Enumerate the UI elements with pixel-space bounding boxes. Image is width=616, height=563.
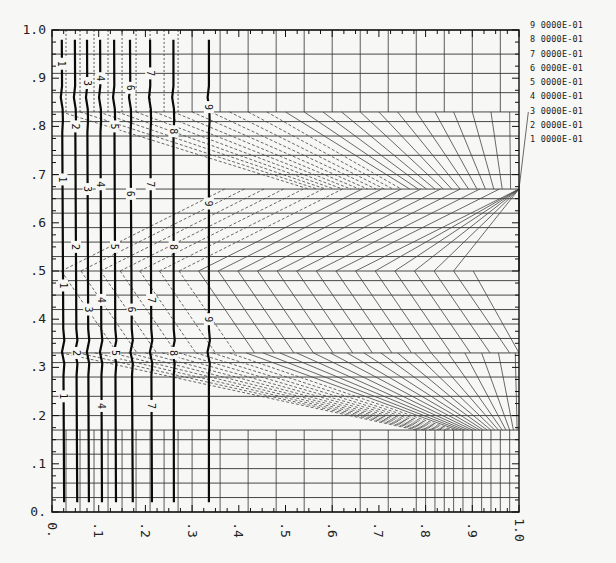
contour-label: 3 (82, 186, 93, 192)
mesh-slant-line (416, 112, 468, 189)
mesh-slant-line (81, 189, 244, 271)
y-tick-label: 0. (30, 504, 46, 519)
contour-label: 3 (82, 80, 93, 86)
mesh-slant-line (196, 353, 446, 430)
mesh-slant-line (211, 112, 376, 189)
y-tick-label: .3 (30, 359, 46, 374)
contour-label: 4 (96, 297, 107, 303)
contour-label: 1 (58, 393, 69, 399)
mesh-slant-line (159, 189, 322, 271)
mesh-slant-line (360, 112, 443, 189)
contour-label: 9 (203, 104, 214, 110)
y-tick-label: .5 (30, 263, 46, 278)
mesh-slant-line (356, 189, 519, 271)
x-tick-label: .8 (418, 522, 433, 538)
legend-entry: 8 0000E-01 (530, 32, 583, 46)
mesh-slant-line (218, 189, 381, 271)
contour-label: 4 (96, 403, 107, 409)
contour-label: 7 (146, 403, 157, 409)
y-tick-label: .4 (30, 311, 46, 326)
mesh-slant-line (267, 112, 401, 189)
mesh-slant-line (199, 189, 362, 271)
x-tick-label: .6 (325, 522, 340, 538)
mesh-slant-line (473, 271, 519, 353)
mesh-slant-line (297, 353, 469, 430)
mesh-slant-line (173, 112, 359, 189)
contour-label: 2 (70, 123, 81, 129)
mesh-slant-line (519, 112, 528, 189)
mesh-slant-line (448, 353, 502, 430)
mesh-slant-line (454, 189, 519, 271)
mesh-slant-line (280, 353, 465, 430)
mesh-slant-line (140, 189, 303, 271)
legend-entry: 3 0000E-01 (530, 104, 583, 118)
legend-entry: 6 0000E-01 (530, 61, 583, 75)
mesh-slant-line (323, 112, 427, 189)
contour-label: 8 (168, 244, 179, 250)
contour-label: 8 (168, 350, 179, 356)
mesh-slant-line (61, 189, 224, 271)
contour-label: 9 (203, 316, 214, 322)
mesh-slant-line (395, 189, 519, 271)
mesh-slant-line (491, 112, 502, 189)
legend-entry: 1 0000E-01 (530, 132, 583, 146)
legend-entry: 2 0000E-01 (530, 118, 583, 132)
x-tick-label: 0. (45, 522, 60, 538)
contour-label: 1 (58, 282, 69, 288)
mesh-slant-line (136, 112, 342, 189)
mesh-slant-line (277, 189, 440, 271)
y-tick-labels: 0..1.2.3.4.5.6.7.8.91.0 (23, 22, 47, 519)
contour-label: 1 (57, 176, 68, 182)
mesh-slant-line (414, 189, 519, 271)
x-tick-label: 1.0 (512, 518, 527, 541)
y-tick-label: 1.0 (23, 22, 46, 37)
mesh-slant-line (101, 189, 264, 271)
mesh-slant-line (78, 353, 420, 430)
mesh-slant-line (297, 189, 460, 271)
mesh-slant-line (229, 353, 453, 430)
contour-label: 1 (56, 61, 67, 67)
mesh-slant-line (248, 112, 393, 189)
mesh-slant-line (510, 112, 511, 189)
y-tick-label: .8 (30, 118, 46, 133)
mesh-grid (52, 30, 528, 512)
x-tick-label: .4 (231, 522, 246, 538)
x-tick-label: .9 (465, 522, 480, 538)
contour-label: 7 (145, 70, 156, 76)
contour-label: 5 (109, 123, 120, 129)
legend-entry: 9 0000E-01 (530, 18, 583, 32)
legend-entry: 7 0000E-01 (530, 47, 583, 61)
contour-line-8 (172, 40, 175, 503)
contour-label: 7 (145, 181, 156, 187)
x-tick-labels: 0..1.2.3.4.5.6.7.8.91.0 (45, 518, 527, 541)
mesh-slant-line (286, 112, 410, 189)
mesh-slant-line (398, 112, 461, 189)
contour-label: 4 (95, 75, 106, 81)
y-tick-label: .1 (30, 456, 46, 471)
x-tick-label: .7 (371, 522, 386, 538)
mesh-slant-line (398, 353, 491, 430)
mesh-slant-line (120, 189, 283, 271)
mesh-slant-line (213, 353, 450, 430)
mesh-slant-line (192, 112, 368, 189)
contour-label: 2 (71, 350, 82, 356)
legend-entry: 5 0000E-01 (530, 75, 583, 89)
mesh-slant-line (238, 189, 401, 271)
contour-label: 6 (125, 191, 136, 197)
mesh-slant-line (342, 112, 435, 189)
contour-label: 5 (110, 350, 121, 356)
contour-label: 4 (95, 181, 106, 187)
contour-label: 6 (125, 85, 136, 91)
mesh-slant-line (498, 353, 513, 430)
contour-label: 8 (168, 128, 179, 134)
x-tick-label: .5 (278, 522, 293, 538)
legend-entry: 4 0000E-01 (530, 89, 583, 103)
contour-label: 7 (146, 297, 157, 303)
legend: 9 0000E-018 0000E-017 0000E-016 0000E-01… (530, 18, 583, 147)
mesh-slant-line (140, 271, 196, 353)
contour-label: 2 (70, 244, 81, 250)
x-tick-label: .2 (138, 522, 153, 538)
contour-label: 9 (203, 201, 214, 207)
mesh-slant-line (472, 112, 493, 189)
mesh-slant-line (99, 112, 326, 189)
